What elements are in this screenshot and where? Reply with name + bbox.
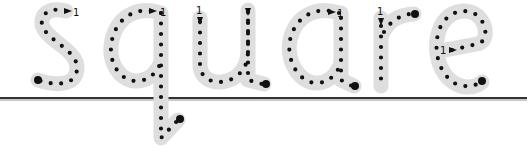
stroke-end-dot [262, 80, 270, 88]
stroke-number: 1 [160, 7, 166, 18]
stroke-number: 1 [196, 5, 202, 16]
stroke-end-dot [478, 77, 486, 85]
letter-r: 1 [377, 6, 419, 86]
stroke-number: 1 [440, 45, 446, 56]
letter-a: 1 [289, 8, 359, 90]
stroke-number: 1 [337, 8, 343, 19]
stroke-number: 1 [377, 6, 383, 17]
stroke-end-dot [351, 82, 359, 90]
stroke-end-dot [176, 115, 184, 123]
stroke-number: 1 [73, 7, 79, 18]
letter-u: 1 [196, 5, 270, 88]
writing-baseline [0, 98, 527, 100]
tracing-worksheet: square 1 1 1 1 [0, 0, 527, 151]
stroke-end-dot [34, 76, 42, 84]
letter-e: 1 [437, 11, 486, 87]
letter-s: 1 [34, 7, 79, 84]
stroke-end-dot [411, 10, 419, 18]
letter-q: 1 [111, 7, 184, 138]
